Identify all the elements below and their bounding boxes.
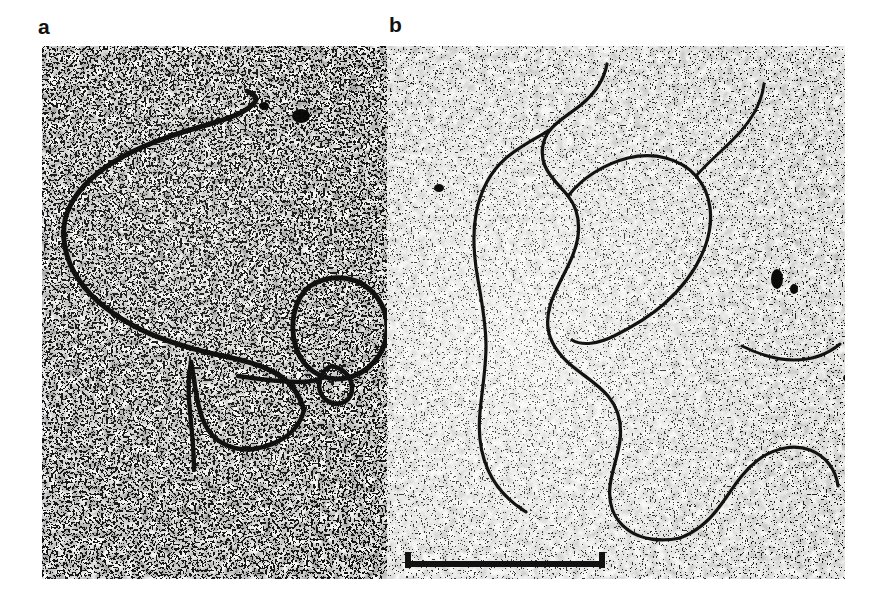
panel-b-grain-overlay — [382, 46, 845, 579]
scale-bar-tick-right — [599, 552, 605, 568]
caption-remnant — [18, 592, 578, 604]
micrograph-figure: a b — [0, 0, 876, 605]
panel-a-grain-overlay — [42, 46, 412, 579]
micrograph-canvas — [42, 46, 845, 579]
panel-label-a: a — [38, 16, 50, 37]
scale-bar-line — [405, 561, 605, 567]
panel-label-b: b — [389, 14, 402, 35]
micrograph-plate — [42, 46, 845, 579]
